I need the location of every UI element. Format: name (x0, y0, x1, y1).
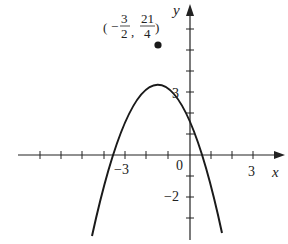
y-tick-label-neg2: −2 (164, 189, 179, 204)
vertex-y-numerator: 21 (141, 11, 154, 26)
y-tick-label-3: 3 (172, 86, 179, 101)
annotation-lparen: ( (103, 20, 107, 35)
vertex-y-denominator: 4 (144, 26, 151, 41)
y-axis-label: y (171, 2, 180, 18)
annotation-minus: − (111, 19, 118, 34)
x-tick-label-3: 3 (248, 164, 255, 179)
origin-label: 0 (176, 158, 183, 173)
parabola-chart: ( − 3 2 , 21 4 ) y x −3 0 3 3 −2 (0, 0, 288, 244)
y-axis-arrow-icon (186, 4, 194, 16)
parabola-curve (92, 85, 222, 236)
vertex-x-denominator: 2 (121, 26, 128, 41)
x-axis-label: x (271, 164, 279, 180)
x-tick-label-neg3: −3 (114, 162, 129, 177)
chart-svg: ( − 3 2 , 21 4 ) y x −3 0 3 3 −2 (0, 0, 288, 244)
x-axis-arrow-icon (274, 151, 285, 159)
vertex-annotation: ( − 3 2 , 21 4 ) (103, 11, 159, 41)
annotation-comma: , (131, 24, 134, 39)
vertex-point (154, 41, 161, 48)
annotation-rparen: ) (155, 20, 159, 35)
vertex-x-numerator: 3 (121, 11, 128, 26)
